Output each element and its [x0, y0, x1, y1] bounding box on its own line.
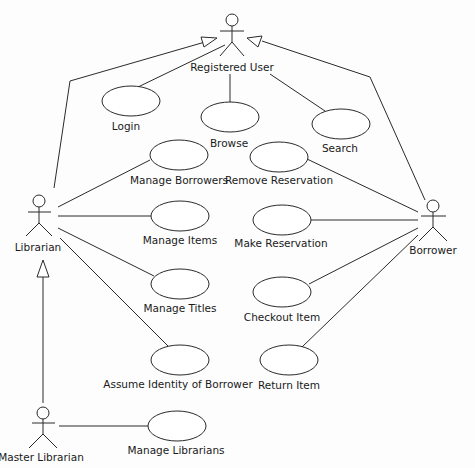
use-case-checkout-item[interactable]: Checkout Item — [244, 277, 320, 323]
use-case-return-item[interactable]: Return Item — [258, 345, 320, 391]
diagram-svg: Registered User Librarian Borrower — [0, 0, 475, 468]
use-case-label: Make Reservation — [234, 237, 327, 249]
stick-figure-icon — [419, 200, 447, 241]
use-case-ellipse — [102, 86, 160, 116]
use-case-ellipse — [151, 201, 209, 231]
use-case-label: Assume Identity of Borrower — [103, 378, 253, 390]
use-case-assume-identity-of-borrower[interactable]: Assume Identity of Borrower — [103, 345, 253, 390]
use-case-ellipse — [260, 345, 318, 375]
stick-figure-icon — [26, 195, 52, 236]
use-case-diagram: Registered User Librarian Borrower — [0, 0, 475, 468]
stick-figure-icon — [29, 407, 57, 448]
use-case-manage-items[interactable]: Manage Items — [143, 201, 217, 246]
use-case-manage-titles[interactable]: Manage Titles — [143, 269, 216, 314]
use-case-search[interactable]: Search — [312, 109, 370, 154]
actor-master-librarian[interactable]: Master Librarian — [0, 407, 84, 463]
use-case-label: Browse — [210, 137, 248, 149]
use-case-label: Return Item — [258, 379, 320, 391]
use-case-label: Manage Titles — [143, 302, 216, 314]
use-case-ellipse — [148, 411, 206, 441]
actor-label: Master Librarian — [0, 451, 84, 463]
actor-borrower[interactable]: Borrower — [409, 200, 457, 256]
stick-figure-icon — [220, 14, 244, 56]
use-case-ellipse — [250, 142, 308, 172]
use-case-label: Search — [322, 142, 358, 154]
use-case-label: Manage Items — [143, 234, 217, 246]
use-case-ellipse — [253, 205, 311, 235]
use-case-label: Checkout Item — [244, 311, 320, 323]
use-case-login[interactable]: Login — [102, 86, 160, 132]
use-case-label: Manage Borrowers — [130, 174, 228, 186]
use-case-ellipse — [150, 140, 208, 170]
actor-librarian[interactable]: Librarian — [15, 195, 62, 253]
use-case-manage-librarians[interactable]: Manage Librarians — [127, 411, 224, 456]
actor-label: Librarian — [15, 241, 62, 253]
use-case-make-reservation[interactable]: Make Reservation — [234, 205, 327, 249]
use-case-label: Remove Reservation — [225, 174, 333, 186]
use-case-ellipse — [201, 102, 259, 132]
use-case-browse[interactable]: Browse — [201, 102, 259, 149]
use-case-label: Login — [112, 120, 140, 132]
actor-label: Borrower — [409, 244, 457, 256]
use-case-label: Manage Librarians — [127, 444, 224, 456]
use-case-ellipse — [151, 269, 209, 299]
generalization-master-librarian-to-librarian — [37, 260, 49, 403]
use-case-ellipse — [253, 277, 311, 307]
use-case-ellipse — [151, 345, 209, 375]
use-case-ellipse — [312, 109, 370, 139]
actor-label: Registered User — [190, 61, 274, 73]
